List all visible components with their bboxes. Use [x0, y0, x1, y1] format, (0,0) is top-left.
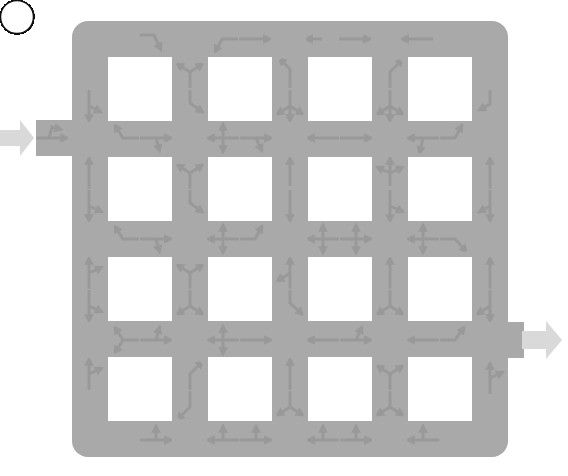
block-square	[308, 57, 372, 121]
block-square	[408, 57, 472, 121]
block-square	[408, 157, 472, 221]
block-square	[208, 257, 272, 321]
tile-circle	[1, 1, 34, 34]
block-square	[208, 357, 272, 421]
block-square	[408, 357, 472, 421]
block-square	[308, 157, 372, 221]
block-square	[108, 357, 172, 421]
board-canvas	[0, 0, 568, 476]
block-square	[108, 257, 172, 321]
entry-arrow-icon	[0, 120, 34, 156]
block-square	[108, 57, 172, 121]
exit-arrow-icon	[522, 321, 562, 359]
puzzle-board	[0, 0, 568, 476]
block-square	[108, 157, 172, 221]
block-square	[308, 257, 372, 321]
block-square	[408, 257, 472, 321]
block-square	[208, 157, 272, 221]
block-square	[208, 57, 272, 121]
block-square	[308, 357, 372, 421]
